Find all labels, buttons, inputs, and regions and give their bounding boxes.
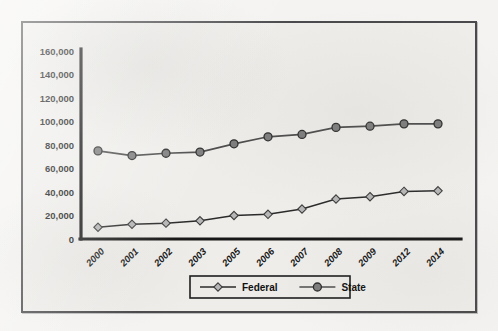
x-axis-tick-label: 2000 bbox=[83, 245, 107, 269]
x-axis-tick-label: 2007 bbox=[287, 245, 311, 269]
y-axis-tick-label: 120,000 bbox=[40, 93, 74, 104]
data-point-marker bbox=[196, 148, 204, 156]
x-axis-tick-label: 2003 bbox=[185, 245, 209, 269]
data-point-marker bbox=[298, 130, 306, 138]
data-point-marker bbox=[434, 187, 442, 195]
data-point-marker bbox=[162, 149, 170, 157]
x-axis-tick-label: 2001 bbox=[117, 246, 140, 269]
x-axis-tick-label: 2014 bbox=[423, 245, 447, 269]
data-point-marker bbox=[313, 283, 321, 291]
data-point-marker bbox=[230, 140, 238, 148]
line-chart: 160,000140,000120,000100,00080,00060,000… bbox=[23, 23, 475, 311]
data-point-marker bbox=[94, 223, 102, 231]
y-axis-tick-label: 20,000 bbox=[45, 210, 74, 221]
y-axis-tick-label: 80,000 bbox=[45, 140, 74, 151]
x-axis-tick-label: 2005 bbox=[219, 245, 243, 269]
data-point-marker bbox=[366, 193, 374, 201]
legend-label-federal: Federal bbox=[242, 282, 278, 293]
data-point-marker bbox=[332, 123, 340, 131]
y-axis-tick-label: 140,000 bbox=[40, 69, 74, 80]
chart-frame: 160,000140,000120,000100,00080,00060,000… bbox=[21, 21, 477, 313]
legend-marker-state bbox=[313, 283, 321, 291]
y-axis-tick-label: 40,000 bbox=[45, 187, 74, 198]
data-point-marker bbox=[298, 205, 306, 213]
data-point-marker bbox=[196, 217, 204, 225]
x-axis-tick-label: 2002 bbox=[151, 245, 175, 269]
data-point-marker bbox=[400, 120, 408, 128]
x-axis-tick-label: 2012 bbox=[389, 245, 413, 269]
data-point-marker bbox=[366, 122, 374, 130]
x-axis-tick-labels: 2000200120022003200520062007200820092012… bbox=[83, 245, 447, 269]
x-axis-tick-label: 2009 bbox=[355, 245, 379, 269]
data-point-marker bbox=[264, 133, 272, 141]
data-point-marker bbox=[162, 219, 170, 227]
data-point-marker bbox=[230, 211, 238, 219]
chart-legend: FederalState bbox=[190, 276, 366, 298]
data-point-marker bbox=[128, 152, 136, 160]
data-point-marker bbox=[400, 187, 408, 195]
y-axis-tick-label: 100,000 bbox=[40, 116, 74, 127]
y-axis-tick-label: 160,000 bbox=[40, 46, 74, 57]
x-axis-tick-label: 2008 bbox=[321, 245, 345, 269]
data-point-marker bbox=[94, 147, 102, 155]
y-axis-tick-label: 60,000 bbox=[45, 163, 74, 174]
data-point-marker bbox=[264, 210, 272, 218]
data-point-marker bbox=[332, 195, 340, 203]
series-markers-state bbox=[94, 120, 442, 160]
y-axis-tick-label: 0 bbox=[69, 234, 74, 245]
data-point-marker bbox=[434, 120, 442, 128]
data-point-marker bbox=[128, 220, 136, 228]
legend-label-state: State bbox=[341, 282, 366, 293]
series-line-federal bbox=[98, 191, 438, 227]
y-axis-tick-labels: 160,000140,000120,000100,00080,00060,000… bbox=[40, 46, 74, 245]
x-axis-tick-label: 2006 bbox=[253, 245, 277, 269]
